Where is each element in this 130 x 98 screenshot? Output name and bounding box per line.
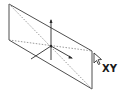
x-axis-arrowhead (69, 56, 74, 59)
origin-point (50, 45, 52, 47)
z-axis-arrowhead (50, 19, 53, 23)
xy-plane-icon (0, 0, 130, 98)
plane-label: XY (102, 64, 117, 74)
y-axis-line (31, 46, 51, 59)
cursor-arrow-icon (94, 53, 102, 65)
xy-plane-widget[interactable]: XY (0, 0, 130, 98)
